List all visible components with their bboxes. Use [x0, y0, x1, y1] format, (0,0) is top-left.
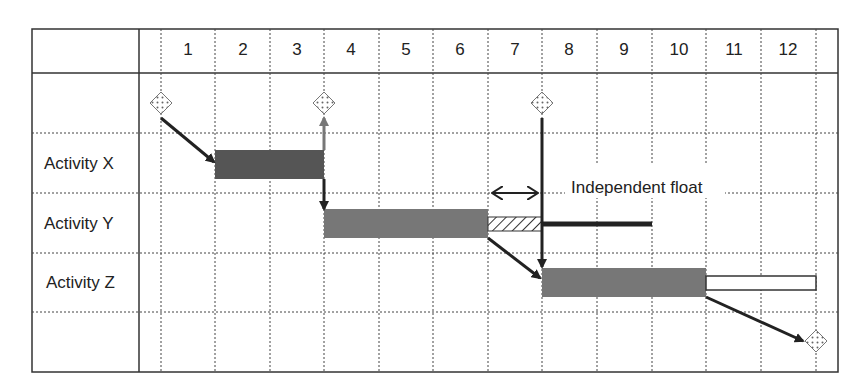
col-10: 10: [659, 40, 699, 60]
col-11: 11: [714, 40, 754, 60]
col-9: 9: [604, 40, 644, 60]
col-3: 3: [277, 40, 317, 60]
activity-z-bar: [542, 268, 706, 297]
col-1: 1: [168, 40, 208, 60]
col-5: 5: [386, 40, 426, 60]
row-label-activity-y: Activity Y: [44, 214, 114, 234]
row-label-activity-x: Activity X: [44, 154, 114, 174]
col-7: 7: [495, 40, 535, 60]
activity-y-bar: [324, 209, 488, 238]
row-label-activity-z: Activity Z: [46, 273, 115, 293]
col-4: 4: [331, 40, 371, 60]
activity-x-bar: [215, 150, 324, 179]
col-6: 6: [440, 40, 480, 60]
col-8: 8: [549, 40, 589, 60]
col-12: 12: [768, 40, 808, 60]
independent-float-label: Independent float: [571, 178, 702, 198]
col-2: 2: [223, 40, 263, 60]
